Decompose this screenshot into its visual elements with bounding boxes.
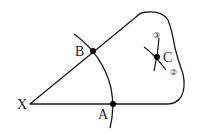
label-X: X	[17, 97, 27, 112]
label-C: C	[163, 50, 172, 65]
label-arc-3: ③	[153, 31, 160, 40]
label-A: A	[98, 107, 109, 122]
label-arc-2: ②	[170, 68, 177, 77]
point-B	[90, 48, 96, 54]
angle-construction-diagram: X B A C ③ ②	[0, 0, 197, 137]
point-C	[154, 54, 160, 60]
label-B: B	[75, 44, 84, 59]
point-A	[110, 101, 116, 107]
region-outline	[30, 12, 184, 104]
